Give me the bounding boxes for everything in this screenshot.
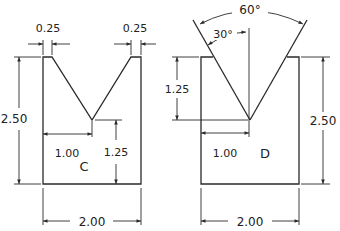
dim-label: 1.25 [104,146,129,159]
dim-label: 1.00 [55,147,80,160]
dim-label: 60° [239,3,260,17]
dim-d-half-angle: 30° [208,28,246,45]
dim-c-height: 2.50 [1,57,41,184]
dim-c-width: 2.00 [43,188,141,229]
dim-label: 1.25 [165,83,190,96]
part-c: 0.25 0.25 2.50 1.00 [1,22,156,229]
dim-d-depth: 1.25 [165,57,248,120]
v-block-drawing: 0.25 0.25 2.50 1.00 [0,0,340,231]
dim-d-included-angle: 60° [200,3,303,24]
dim-c-ledge-left: 0.25 [28,22,70,55]
dim-label: 2.50 [1,112,28,126]
dim-label: 30° [213,28,233,41]
part-d: 60° 30° 1.25 2.50 1.00 [165,3,337,229]
dim-d-apex-offset: 1.00 [201,120,249,160]
dim-c-ledge-right: 0.25 [114,22,156,55]
part-d-outline [201,57,299,184]
part-c-outline [43,57,141,184]
dim-c-depth: 1.25 [95,120,128,184]
dim-d-width: 2.00 [201,188,299,229]
dim-label: 0.25 [36,22,61,35]
part-d-label: D [260,146,270,161]
dim-label: 0.25 [123,22,148,35]
dim-c-apex-offset: 1.00 [43,121,92,160]
dim-label: 2.00 [79,215,106,229]
part-c-label: C [79,159,88,174]
dim-d-height: 2.50 [301,57,336,184]
dim-label: 1.00 [213,147,238,160]
dim-label: 2.00 [237,215,264,229]
dim-label: 2.50 [310,114,337,128]
